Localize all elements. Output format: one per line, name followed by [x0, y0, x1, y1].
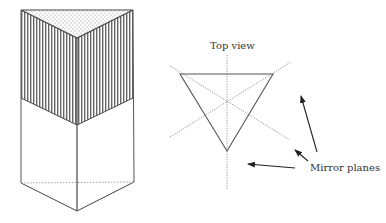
arrow-up: [301, 96, 317, 152]
triangular-prism: [21, 10, 134, 211]
arrow-left: [248, 164, 295, 168]
arrow-diagonal: [295, 150, 308, 161]
mirror-plane-diagonal-2: [170, 62, 291, 137]
top-view-triangle: [180, 74, 273, 151]
top-view-label: Top view: [210, 40, 255, 51]
mirror-planes-label: Mirror planes: [310, 162, 380, 173]
top-view-figure: Top view: [170, 40, 291, 190]
mirror-planes-diagram: Top view Mirror planes: [0, 0, 386, 223]
mirror-plane-diagonal-1: [170, 66, 290, 140]
mirror-plane-callouts: Mirror planes: [248, 96, 380, 173]
